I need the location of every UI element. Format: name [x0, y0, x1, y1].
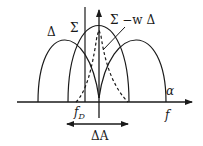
sigma-minus-w-delta-label: Σ −w Δ: [110, 13, 155, 27]
f-d-label: fD: [73, 105, 85, 121]
diagram-canvas: Δ Σ Σ −w Δ α fD f ΔA: [0, 0, 203, 146]
delta-label: Δ: [47, 25, 56, 39]
sigma-label: Σ: [70, 21, 78, 35]
delta-a-label: ΔA: [91, 129, 109, 143]
delta-right-lobe: [99, 40, 166, 102]
sigma-minus-w-delta-curve: [76, 30, 128, 102]
alpha-label: α: [166, 84, 174, 98]
beam-pattern-diagram: Δ Σ Σ −w Δ α fD f ΔA: [0, 0, 203, 146]
label-pointer: [103, 27, 125, 50]
f-axis-label: f: [164, 108, 172, 122]
